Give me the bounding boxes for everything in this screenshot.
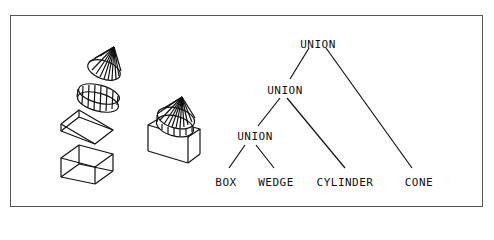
cone-icon: [85, 47, 123, 84]
tree-leaf-cylinder: CYLINDER: [317, 176, 374, 189]
tree-node-root-union: UNION: [300, 38, 336, 51]
box-icon: [61, 145, 113, 184]
tree-leaf-cone: CONE: [405, 176, 434, 189]
wedge-icon: [61, 110, 113, 144]
combined-object-icon: [148, 97, 200, 163]
tree-node-level2-union: UNION: [267, 84, 303, 97]
tree-leaf-box: BOX: [215, 176, 236, 189]
tree-node-level3-union: UNION: [237, 130, 273, 143]
tree-edges: [229, 48, 412, 168]
tree-leaf-wedge: WEDGE: [258, 176, 294, 189]
cylinder-icon: [75, 80, 121, 116]
